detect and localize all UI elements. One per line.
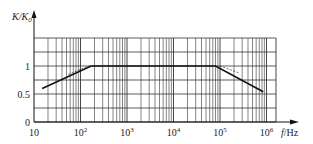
- y-axis-arrow-icon: [32, 10, 37, 18]
- x-tick-label: 105: [213, 126, 227, 138]
- frequency-response-chart: 1010210310410510600.51 K/K0 f/Hz: [0, 0, 313, 144]
- y-tick-label: 1: [25, 61, 30, 72]
- x-tick-label: 104: [167, 126, 181, 138]
- grid: [34, 38, 276, 122]
- x-axis-arrow-icon: [290, 120, 299, 125]
- x-tick-label: 103: [120, 126, 134, 138]
- x-tick-label: 102: [74, 126, 88, 138]
- x-axis-label: f/Hz: [281, 127, 299, 138]
- y-tick-label: 0.5: [18, 89, 31, 100]
- y-axis-label: K/K0: [11, 11, 32, 24]
- x-tick-label: 106: [260, 126, 274, 138]
- y-tick-label: 0: [25, 117, 30, 128]
- data-series: [42, 66, 263, 92]
- x-tick-label: 10: [29, 127, 39, 138]
- axes: [32, 10, 300, 125]
